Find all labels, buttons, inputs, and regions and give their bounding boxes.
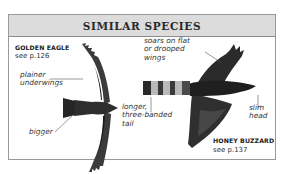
annotation-longer-three-banded-tail: longer, three-banded tail: [122, 103, 172, 128]
golden-eagle-page-ref[interactable]: see p.126: [15, 52, 50, 60]
golden-eagle-illustration-icon: [63, 43, 118, 172]
honey-buzzard-page-ref[interactable]: see p.137: [213, 146, 248, 154]
annotation-plainer-underwings: plainer underwings: [20, 71, 63, 88]
honey-buzzard-name: HONEY BUZZARD: [213, 137, 274, 144]
annotation-slim-head: slim head: [249, 104, 267, 121]
golden-eagle-name: GOLDEN EAGLE: [15, 44, 69, 51]
annotation-bigger: bigger: [29, 128, 53, 136]
annotation-soars-flat-or-drooped-wings: soars on flat or drooped wings: [144, 37, 190, 62]
